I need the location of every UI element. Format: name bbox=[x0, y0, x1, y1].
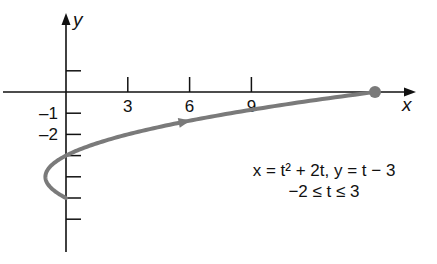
y-axis-arrow-icon bbox=[62, 13, 71, 25]
x-tick-label: 3 bbox=[123, 97, 132, 116]
x-tick-label: 6 bbox=[185, 97, 194, 116]
x-tick-label: 9 bbox=[247, 97, 256, 116]
parametric-chart: 369 –1–2 y x x = t² + 2t, y = t − 3 −2 ≤… bbox=[0, 0, 437, 264]
endpoint-marker bbox=[369, 86, 381, 98]
x-ticks: 369 bbox=[123, 77, 256, 116]
axes bbox=[3, 13, 416, 252]
x-axis-label: x bbox=[401, 94, 413, 115]
equation-line-1: x = t² + 2t, y = t − 3 bbox=[253, 161, 396, 180]
y-axis-label: y bbox=[71, 9, 84, 30]
y-tick-label: –2 bbox=[39, 125, 58, 144]
equation-line-2: −2 ≤ t ≤ 3 bbox=[288, 182, 359, 201]
y-tick-label: –1 bbox=[39, 104, 58, 123]
